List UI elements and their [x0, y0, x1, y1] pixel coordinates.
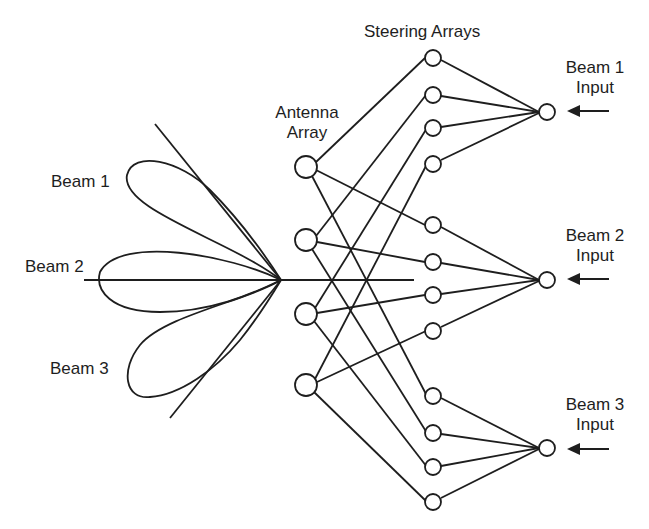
steering-node-11 [425, 459, 441, 475]
steering-node-4 [425, 156, 441, 172]
steering-node-5 [425, 217, 441, 233]
beam2-input-label-line1: Beam 2 [550, 226, 640, 246]
beam2-input-node [539, 272, 555, 288]
beam3-label: Beam 3 [50, 359, 109, 379]
steering-node-9 [425, 388, 441, 404]
beam1-lobe [127, 161, 281, 280]
beam1-input-arrow-icon [567, 105, 609, 117]
beam3-direction-line [170, 280, 281, 418]
steering-arrays-label: Steering Arrays [364, 22, 480, 42]
steering-node-6 [425, 254, 441, 270]
beam1-input-label: Beam 1 Input [550, 58, 640, 98]
beam1-input-label-line1: Beam 1 [550, 58, 640, 78]
beam3-input-arrow-icon [567, 443, 609, 455]
antenna-element-1 [295, 156, 317, 178]
antenna-array-label: Antenna Array [262, 103, 352, 143]
beam1-direction-line [155, 124, 281, 280]
beam2-input-label: Beam 2 Input [550, 226, 640, 266]
beam3-input-node [539, 440, 555, 456]
beam1-label: Beam 1 [51, 172, 110, 192]
beam3-input-label-line2: Input [550, 415, 640, 435]
beam3-input-label: Beam 3 Input [550, 395, 640, 435]
steering-node-1 [425, 50, 441, 66]
beam2-input-arrow-icon [567, 273, 609, 285]
steering-node-3 [425, 120, 441, 136]
beam2-lobe [99, 252, 281, 312]
beam3-input-label-line1: Beam 3 [550, 395, 640, 415]
steering-node-2 [425, 87, 441, 103]
antenna-element-4 [295, 374, 317, 396]
beam1-input-node [539, 104, 555, 120]
antenna-element-3 [295, 303, 317, 325]
antenna-array-label-line2: Array [262, 123, 352, 143]
beam1-input-label-line2: Input [550, 78, 640, 98]
antenna-element-2 [295, 229, 317, 251]
beam3-lobe [128, 280, 281, 397]
steering-node-7 [425, 287, 441, 303]
steering-node-10 [425, 425, 441, 441]
steering-node-8 [425, 323, 441, 339]
steering-input-connections [441, 60, 539, 498]
beam2-label: Beam 2 [25, 257, 84, 277]
steering-node-12 [425, 494, 441, 510]
antenna-array-label-line1: Antenna [262, 103, 352, 123]
beam2-input-label-line2: Input [550, 246, 640, 266]
